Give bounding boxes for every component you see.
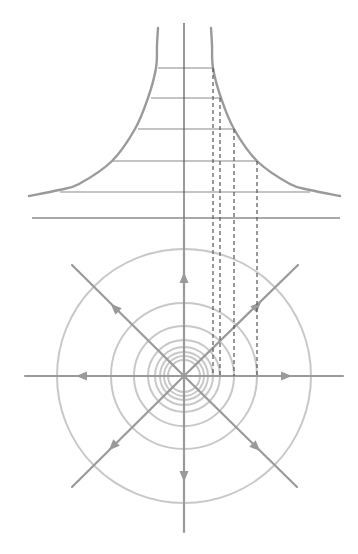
arrow-icon — [180, 272, 189, 283]
field-line-up-right — [184, 265, 298, 376]
potential-curve-plot — [29, 23, 340, 218]
equipotential-plot — [25, 219, 343, 532]
field-line-up-left — [72, 265, 184, 376]
arrow-icon — [180, 471, 189, 482]
arrow-icon — [76, 372, 87, 381]
field-lines — [25, 219, 343, 532]
field-line-down-right — [184, 376, 297, 487]
potential-field-diagram — [0, 0, 358, 554]
left-potential-curve — [29, 28, 158, 196]
right-potential-curve — [211, 28, 340, 196]
projection-lines — [213, 68, 257, 376]
field-line-down-left — [72, 376, 184, 487]
arrow-icon — [281, 372, 292, 381]
